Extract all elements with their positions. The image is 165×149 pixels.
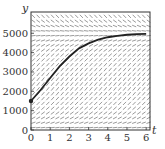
slope-segment — [123, 92, 126, 95]
slope-segment — [42, 68, 45, 71]
slope-segment — [123, 87, 126, 90]
slope-segment — [113, 25, 117, 27]
slope-segment — [94, 77, 97, 80]
slope-segment — [142, 97, 145, 100]
slope-segment — [94, 20, 98, 23]
slope-segment — [90, 73, 93, 76]
slope-segment — [127, 44, 131, 46]
slope-segment — [133, 58, 136, 61]
slope-segment — [128, 63, 131, 66]
slope-segment — [60, 112, 64, 115]
slope-segment — [32, 15, 35, 18]
slope-segment — [60, 31, 64, 32]
slope-segment — [41, 58, 44, 61]
slope-segment — [41, 127, 45, 128]
slope-segment — [60, 20, 64, 23]
slope-segment — [98, 35, 102, 36]
slope-segment — [104, 92, 107, 95]
slope-segment — [127, 31, 131, 32]
slope-segment — [46, 112, 50, 115]
slope-segment — [85, 73, 88, 76]
slope-segment — [70, 97, 73, 100]
slope-segment — [132, 35, 136, 36]
slope-segment — [46, 44, 50, 46]
slope-segment — [32, 68, 35, 71]
slope-segment — [32, 77, 35, 80]
slope-segment — [70, 77, 73, 80]
slope-segment — [75, 68, 78, 71]
slope-segment — [99, 112, 103, 115]
slope-segment — [70, 107, 73, 110]
slope-segment — [66, 73, 69, 76]
slope-segment — [104, 54, 107, 57]
y-tick-label: 2000 — [3, 86, 28, 97]
slope-segment — [75, 25, 79, 27]
slope-segment — [74, 35, 78, 36]
slope-segment — [36, 25, 40, 27]
slope-segment — [31, 44, 35, 46]
slope-segment — [128, 97, 131, 100]
slope-segment — [133, 82, 136, 85]
slope-segment — [123, 107, 126, 110]
slope-segment — [55, 40, 59, 41]
slope-segment — [133, 97, 136, 100]
slope-segment — [103, 35, 107, 36]
slope-segment — [98, 122, 102, 123]
slope-segment — [41, 35, 45, 36]
slope-segment — [138, 73, 141, 76]
slope-segment — [118, 68, 121, 71]
slope-segment — [56, 107, 59, 110]
slope-segment — [118, 117, 122, 119]
slope-segment — [51, 87, 54, 90]
slope-segment — [104, 15, 107, 18]
slope-segment — [70, 117, 74, 119]
slope-segment — [60, 44, 64, 46]
slope-segment — [65, 35, 69, 36]
slope-segment — [85, 15, 88, 18]
slope-segment — [85, 68, 88, 71]
slope-segment — [99, 73, 102, 76]
slope-segment — [90, 87, 93, 90]
slope-segment — [108, 122, 112, 123]
slope-field — [31, 15, 151, 128]
slope-segment — [51, 58, 54, 61]
slope-segment — [84, 40, 88, 41]
slope-segment — [113, 122, 117, 123]
slope-segment — [89, 58, 92, 61]
slope-segment — [32, 87, 35, 90]
y-tick-label: 3000 — [3, 66, 28, 77]
slope-segment — [142, 112, 146, 115]
x-tick-labels: 0123456 — [28, 132, 150, 143]
slope-segment — [75, 20, 79, 23]
slope-segment — [104, 107, 107, 110]
slope-segment — [133, 15, 136, 18]
slope-segment — [41, 112, 45, 115]
slope-segment — [104, 49, 108, 52]
slope-segment — [85, 54, 88, 57]
slope-segment — [118, 40, 122, 41]
slope-segment — [85, 92, 88, 95]
slope-segment — [99, 92, 102, 95]
slope-segment — [104, 87, 107, 90]
slope-segment — [66, 77, 69, 80]
slope-segment — [79, 122, 83, 123]
slope-segment — [41, 25, 45, 27]
slope-segment — [70, 58, 73, 61]
slope-segment — [79, 117, 83, 119]
slope-segment — [66, 63, 69, 66]
slope-segment — [113, 40, 117, 41]
slope-segment — [122, 127, 126, 128]
slope-segment — [109, 102, 112, 105]
slope-segment — [79, 40, 83, 41]
slope-segment — [37, 87, 40, 90]
slope-segment — [46, 54, 49, 57]
slope-segment — [132, 122, 136, 123]
slope-segment — [61, 87, 64, 90]
slope-segment — [99, 97, 102, 100]
slope-segment — [70, 15, 73, 18]
slope-segment — [85, 63, 88, 66]
slope-segment — [94, 31, 98, 32]
slope-segment — [123, 25, 127, 27]
slope-segment — [61, 102, 64, 105]
slope-segment — [99, 87, 102, 90]
